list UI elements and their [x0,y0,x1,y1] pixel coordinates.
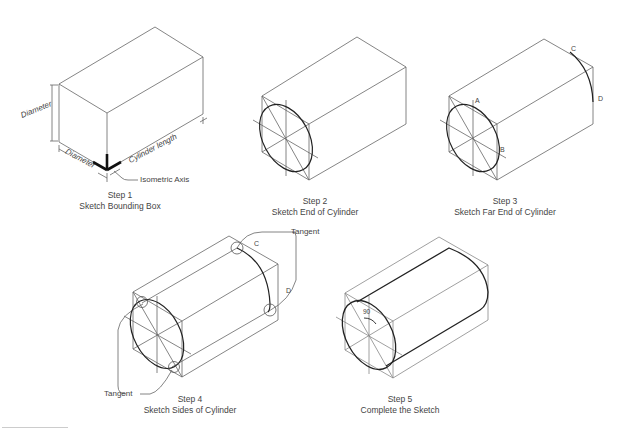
step-number: Step 1 [60,190,180,201]
label-point-a: A [475,97,480,104]
step4-far-arc [237,248,270,312]
step-number: Step 2 [250,196,380,207]
step4-box [118,232,296,394]
label-point-b: B [500,146,505,153]
step-title: Complete the Sketch [340,405,460,416]
step-number: Step 3 [430,196,580,207]
caption-step-4: Step 4 Sketch Sides of Cylinder [120,394,260,416]
label-tangent-top: Tangent [291,227,319,236]
step-title: Sketch Far End of Cylinder [430,207,580,218]
step5-box [336,237,488,378]
step3-far-arc [570,52,593,102]
caption-step-5: Step 5 Complete the Sketch [340,394,460,416]
caption-step-2: Step 2 Sketch End of Cylinder [250,196,380,218]
label-point-c: C [571,45,576,52]
label-isometric-axis: Isometric Axis [140,175,189,184]
label-angle-90: 90 [363,308,370,315]
caption-step-3: Step 3 Sketch Far End of Cylinder [430,196,580,218]
step-number: Step 4 [120,394,260,405]
label-step4-d: D [286,287,291,294]
step2-box [253,37,406,180]
isometric-axis-icon [93,154,121,170]
angle-arc-icon [364,318,376,324]
label-step4-c: C [254,240,259,247]
step3-box [440,39,593,180]
caption-step-1: Step 1 Sketch Bounding Box [60,190,180,212]
step-title: Sketch Sides of Cylinder [120,405,260,416]
step-number: Step 5 [340,394,460,405]
step-title: Sketch End of Cylinder [250,207,380,218]
footer-rule [2,427,68,428]
label-point-d: D [598,95,603,102]
step-title: Sketch Bounding Box [60,201,180,212]
